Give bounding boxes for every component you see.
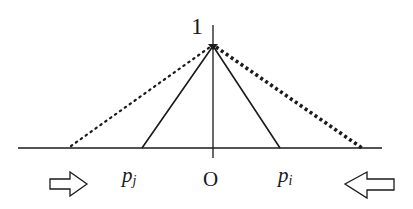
arrow-left-icon [345, 172, 394, 198]
right-heavy-dotted-curve [216, 47, 362, 148]
origin-label: O [203, 167, 218, 191]
membership-function-diagram: 1 O pj pi [0, 0, 413, 209]
arrow-right-icon [50, 172, 87, 196]
left-dotted-curve [71, 47, 210, 146]
solid-triangle-curve [142, 46, 280, 148]
y-axis-label: 1 [191, 13, 203, 39]
point-pj-label: pj [120, 163, 137, 188]
point-pi-label: pi [276, 163, 293, 188]
